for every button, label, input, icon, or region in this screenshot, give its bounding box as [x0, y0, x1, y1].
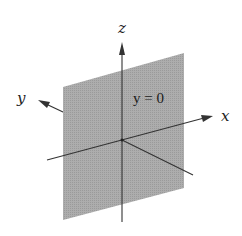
x-axis-label: x [221, 107, 230, 125]
plane-equation-label: y = 0 [133, 90, 164, 106]
y-axis-label: y [16, 89, 26, 107]
xz-plane-diagram: z y x y = 0 [0, 0, 242, 236]
x-axis-arrowhead-icon [201, 115, 213, 122]
y-axis-arrowhead-icon [38, 100, 50, 108]
plane-y-equals-0 [63, 53, 184, 220]
z-axis-arrowhead-icon [119, 42, 125, 55]
origin-point [121, 139, 124, 142]
z-axis-label: z [117, 19, 126, 37]
